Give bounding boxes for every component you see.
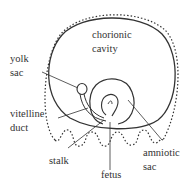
yolk-sac-leader (42, 72, 78, 88)
vitelline-duct-leader (58, 108, 88, 118)
label-yolk-sac-line2: sac (10, 67, 24, 78)
label-chorionic-cavity-line1: chorionic (92, 29, 132, 40)
label-vitelline-duct-line1: vitelline (10, 108, 45, 119)
label-yolk-sac-line1: yolk (10, 53, 29, 64)
fetus-limb (108, 101, 112, 104)
label-stalk: stalk (49, 155, 70, 166)
label-amniotic-sac-line1: amniotic (143, 147, 180, 158)
label-amniotic-sac-line2: sac (143, 161, 157, 172)
fetus-shape (102, 94, 119, 116)
yolk-sac (77, 84, 87, 95)
chorionic-villi (55, 130, 163, 146)
label-vitelline-duct-line2: duct (10, 122, 28, 133)
embryo-diagram: chorionic cavity yolk sac vitelline duct… (0, 0, 189, 188)
label-fetus: fetus (101, 169, 121, 180)
label-chorionic-cavity-line2: cavity (92, 43, 118, 54)
